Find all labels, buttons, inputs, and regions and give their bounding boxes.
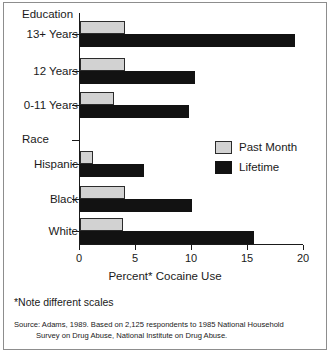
cocaine-use-bar-chart-figure: Education Race 13+ Years 12 Years 0-11 Y… [0,0,330,355]
xtick-label-15: 15 [241,252,253,264]
bar-past-month-white [80,218,123,231]
legend-item-lifetime: Lifetime [215,157,297,177]
xtick-15 [247,245,248,250]
xtick-label-20: 20 [297,252,309,264]
bar-lifetime-hispanic [80,164,144,177]
source-line-2: Survey on Drug Abuse, National Institute… [14,331,314,342]
bar-lifetime-black [80,199,192,212]
bar-lifetime-0-11-years [80,105,189,118]
bar-lifetime-white [80,231,254,244]
bar-past-month-black [80,186,125,199]
bar-past-month-0-11-years [80,92,114,105]
legend-swatch-past-month-icon [215,141,232,154]
bar-lifetime-13-years [80,34,295,47]
category-label-0-11-years: 0-11 Years [24,99,78,111]
category-label-13-years: 13+ Years [27,28,78,40]
category-label-hispanic: Hispanic [34,158,78,170]
xtick-0 [79,245,80,250]
bar-lifetime-12-years [80,71,195,84]
category-label-12-years: 12 Years [33,65,78,77]
bar-past-month-hispanic [80,151,93,164]
legend-item-past-month: Past Month [215,137,297,157]
source-citation: Source: Adams, 1989. Based on 2,125 resp… [14,320,314,342]
category-label-black: Black [50,193,78,205]
bottom-rule [3,349,327,350]
group-label-race: Race [22,133,49,145]
source-line-1: Source: Adams, 1989. Based on 2,125 resp… [14,320,284,329]
bar-past-month-12-years [80,58,125,71]
xtick-5 [135,245,136,250]
bar-past-month-13-years [80,21,125,34]
legend-label-lifetime: Lifetime [239,161,279,173]
xtick-20 [303,245,304,250]
scales-note: *Note different scales [14,296,114,308]
xtick-label-5: 5 [132,252,138,264]
plot-area: Education Race 13+ Years 12 Years 0-11 Y… [0,0,330,258]
xtick-label-0: 0 [76,252,82,264]
category-label-white: White [49,225,78,237]
ytick-group-separator [72,140,80,141]
legend-label-past-month: Past Month [239,141,297,153]
x-axis-title: Percent* Cocaine Use [0,270,330,282]
group-label-education: Education [22,8,73,20]
xtick-10 [191,245,192,250]
chart-legend: Past Month Lifetime [215,137,297,177]
legend-swatch-lifetime-icon [215,161,232,174]
xtick-label-10: 10 [185,252,197,264]
